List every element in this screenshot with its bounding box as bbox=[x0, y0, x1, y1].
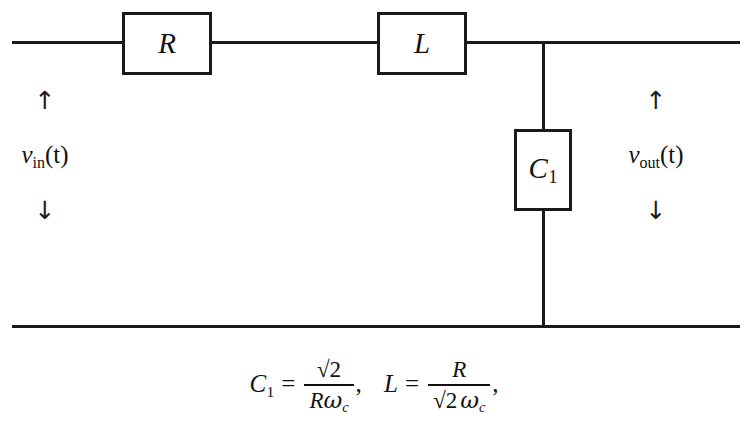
bottom-wire-ground-rail bbox=[12, 325, 740, 328]
inductor-component-box: L bbox=[377, 12, 467, 75]
output-voltage-subscript: out bbox=[640, 154, 660, 171]
capacitor-equation-denominator: Rωc bbox=[304, 386, 353, 415]
input-voltage-port: ↑ vin(t) ↓ bbox=[0, 88, 120, 223]
arrow-down-icon: ↓ bbox=[581, 198, 731, 223]
capacitor-label-subscript: 1 bbox=[548, 167, 557, 187]
output-voltage-label: vout(t) bbox=[581, 142, 731, 171]
capacitor-component-box: C1 bbox=[514, 129, 572, 211]
capacitor-equation-lhs: C1 bbox=[249, 370, 274, 397]
top-wire-segment-left bbox=[12, 41, 123, 44]
capacitor-equation-numerator: √2 bbox=[304, 358, 353, 386]
capacitor-equation-fraction: √2Rωc bbox=[304, 358, 353, 415]
inductor-equation-numerator: R bbox=[428, 358, 490, 386]
output-voltage-argument: (t) bbox=[660, 141, 684, 168]
inductor-equation-operator: = bbox=[405, 370, 419, 397]
output-voltage-port: ↑ vout(t) ↓ bbox=[581, 88, 731, 223]
arrow-up-icon: ↑ bbox=[0, 88, 120, 113]
inductor-equation-fraction: R√2ωc bbox=[428, 358, 490, 415]
top-wire-segment-middle bbox=[211, 41, 378, 44]
resistor-component-box: R bbox=[122, 12, 212, 75]
capacitor-equation-trailing-comma: , bbox=[356, 370, 362, 397]
capacitor-value-equation: C1=√2Rωc, bbox=[249, 358, 377, 415]
shunt-wire-lower bbox=[542, 210, 545, 328]
top-wire-segment-right bbox=[465, 41, 740, 44]
capacitor-equation-operator: = bbox=[281, 370, 295, 397]
resistor-label: R bbox=[158, 29, 176, 58]
inductor-value-equation: L=R√2ωc, bbox=[384, 358, 498, 415]
component-value-equations: C1=√2Rωc, L=R√2ωc, bbox=[0, 358, 748, 415]
inductor-equation-trailing-comma: , bbox=[492, 370, 498, 397]
inductor-equation-denominator: √2ωc bbox=[428, 386, 490, 415]
input-voltage-subscript: in bbox=[33, 154, 45, 171]
inductor-equation-lhs: L bbox=[384, 370, 398, 397]
circuit-figure: R L C1 ↑ vin(t) ↓ ↑ vout(t) ↓ C1=√2Rωc, … bbox=[0, 0, 748, 436]
arrow-down-icon: ↓ bbox=[0, 198, 120, 223]
shunt-wire-upper bbox=[542, 41, 545, 130]
capacitor-label: C1 bbox=[529, 154, 558, 186]
arrow-up-icon: ↑ bbox=[581, 88, 731, 113]
input-voltage-argument: (t) bbox=[45, 141, 69, 168]
input-voltage-label: vin(t) bbox=[0, 142, 120, 171]
inductor-label: L bbox=[414, 29, 430, 58]
